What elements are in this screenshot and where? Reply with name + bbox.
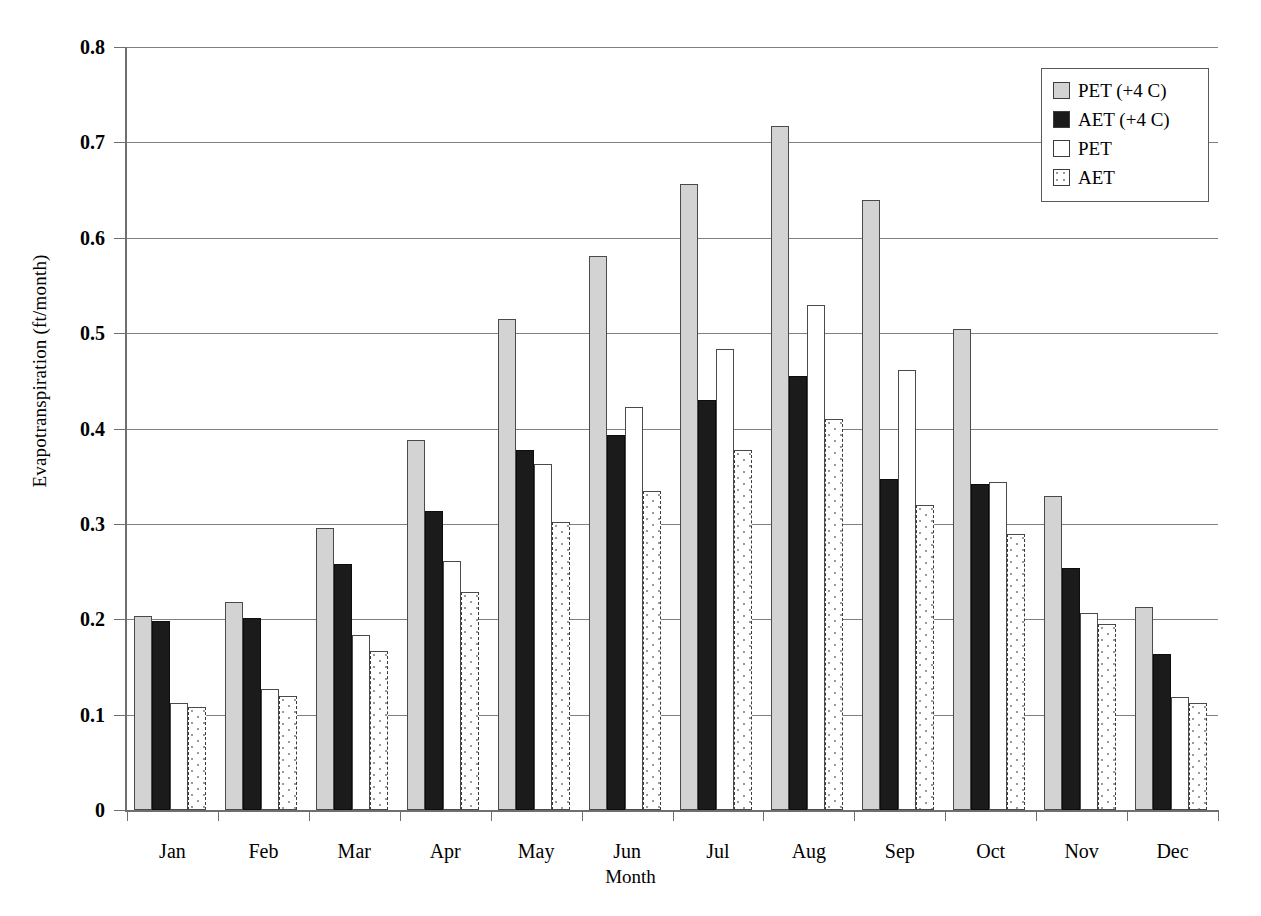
evapotranspiration-bar-chart: Evapotranspiration (ft/month) 00.10.20.3… [0, 0, 1261, 916]
legend-item[interactable]: AET [1042, 163, 1208, 192]
y-axis-tick-label: 0.2 [45, 608, 105, 631]
bar [334, 564, 352, 810]
bar [643, 491, 661, 810]
legend-label: AET (+4 C) [1078, 109, 1170, 131]
bar [1062, 568, 1080, 810]
y-axis-tick-label: 0.7 [45, 131, 105, 154]
legend-swatch-icon [1053, 169, 1070, 186]
legend-item[interactable]: PET (+4 C) [1042, 76, 1208, 105]
bar [188, 707, 206, 810]
bar [1189, 703, 1207, 810]
y-axis-tick [114, 715, 127, 716]
bar [443, 561, 461, 810]
bar [680, 184, 698, 810]
bar [971, 484, 989, 810]
bar [898, 370, 916, 810]
x-axis-tick [1127, 810, 1128, 821]
bar [789, 376, 807, 810]
gridline [127, 47, 1218, 48]
bar [279, 696, 297, 810]
bar [516, 450, 534, 810]
legend-swatch-icon [1053, 82, 1070, 99]
x-axis-tick [582, 810, 583, 821]
x-axis-title: Month [0, 866, 1261, 888]
bar [607, 435, 625, 810]
y-axis-tick [114, 619, 127, 620]
y-axis-tick-label: 0.3 [45, 512, 105, 535]
bar [316, 528, 334, 810]
bar [989, 482, 1007, 810]
y-axis-tick-label: 0.5 [45, 322, 105, 345]
bar [243, 618, 261, 810]
x-axis-tick [763, 810, 764, 821]
x-axis-tick [673, 810, 674, 821]
gridline [127, 333, 1218, 334]
legend-item[interactable]: PET [1042, 134, 1208, 163]
x-axis-tick [854, 810, 855, 821]
bar [152, 621, 170, 810]
bar [1007, 534, 1025, 810]
y-axis-tick [114, 142, 127, 143]
bar [862, 200, 880, 810]
bar [407, 440, 425, 810]
y-axis-tick [114, 333, 127, 334]
y-axis-tick-label: 0.1 [45, 703, 105, 726]
y-axis-tick-label: 0.4 [45, 417, 105, 440]
legend-swatch-icon [1053, 140, 1070, 157]
bar [352, 635, 370, 810]
y-axis-tick [114, 429, 127, 430]
bar [716, 349, 734, 810]
legend-item[interactable]: AET (+4 C) [1042, 105, 1208, 134]
bar [134, 616, 152, 810]
bar [825, 419, 843, 810]
x-axis-tick [127, 810, 128, 821]
x-axis-tick [1218, 810, 1219, 821]
bar [1080, 613, 1098, 810]
bar [498, 319, 516, 810]
x-axis-tick [945, 810, 946, 821]
bar [1044, 496, 1062, 810]
x-axis-tick [218, 810, 219, 821]
bar [1153, 654, 1171, 810]
y-axis-tick [114, 238, 127, 239]
y-axis-tick-label: 0.6 [45, 226, 105, 249]
y-axis-tick [114, 810, 127, 811]
bar [880, 479, 898, 810]
y-axis-tick-label: 0 [45, 799, 105, 822]
bar [698, 400, 716, 810]
bar [771, 126, 789, 810]
y-axis-tick-label: 0.8 [45, 36, 105, 59]
bar [261, 689, 279, 810]
bar [534, 464, 552, 810]
bar [552, 522, 570, 810]
gridline [127, 429, 1218, 430]
x-axis-tick [309, 810, 310, 821]
bar [589, 256, 607, 810]
x-axis-tick [400, 810, 401, 821]
y-axis-tick [114, 47, 127, 48]
x-axis-tick [491, 810, 492, 821]
y-axis-title: Evapotranspiration (ft/month) [29, 111, 51, 631]
chart-legend: PET (+4 C)AET (+4 C)PETAET [1041, 68, 1209, 202]
x-axis-tick-label: Dec [1113, 840, 1233, 863]
bar [625, 407, 643, 810]
bar [1098, 624, 1116, 810]
bar [734, 450, 752, 810]
legend-label: PET (+4 C) [1078, 80, 1166, 102]
bar [461, 592, 479, 810]
bar [807, 305, 825, 810]
bar [370, 651, 388, 810]
bar [225, 602, 243, 810]
legend-label: PET [1078, 138, 1112, 160]
bar [953, 329, 971, 810]
bar [1171, 697, 1189, 810]
bar [916, 505, 934, 810]
bar [170, 703, 188, 810]
legend-label: AET [1078, 167, 1115, 189]
x-axis-tick [1036, 810, 1037, 821]
bar [425, 511, 443, 810]
legend-swatch-icon [1053, 111, 1070, 128]
bar [1135, 607, 1153, 810]
y-axis-tick [114, 524, 127, 525]
gridline [127, 238, 1218, 239]
